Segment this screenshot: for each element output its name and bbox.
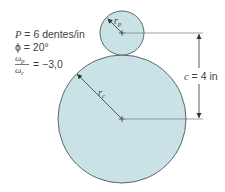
svg-text:= −3,0: = −3,0 [33, 58, 63, 70]
center-distance-label: c = 4 in [184, 70, 218, 82]
speed-ratio-fraction: ωp ωc = −3,0 [15, 53, 63, 76]
svg-text:ωp: ωp [15, 53, 25, 64]
diagram-svg: rp rc c = 4 in P = 6 dentes/in ϕ = 20° ω… [0, 0, 225, 192]
pitch-label: P = 6 dentes/in [14, 28, 85, 40]
gear-diagram: rp rc c = 4 in P = 6 dentes/in ϕ = 20° ω… [0, 0, 225, 192]
pressure-angle-label: ϕ = 20° [15, 41, 49, 53]
svg-text:ωc: ωc [15, 65, 24, 76]
